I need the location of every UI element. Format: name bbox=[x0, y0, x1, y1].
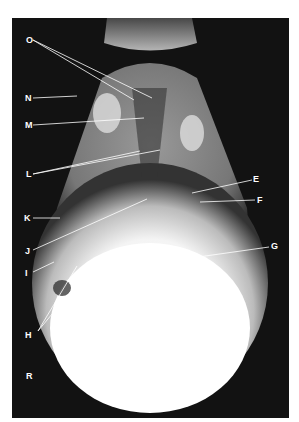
label-o: O bbox=[26, 36, 33, 45]
label-l: L bbox=[26, 170, 32, 179]
side-marker-r: R bbox=[26, 372, 33, 381]
label-j: J bbox=[25, 247, 30, 256]
label-g: G bbox=[271, 242, 278, 251]
label-e: E bbox=[253, 175, 259, 184]
label-f: F bbox=[257, 196, 263, 205]
label-n: N bbox=[25, 94, 32, 103]
xray-image: O N M L E F K J G I H R bbox=[12, 18, 289, 418]
label-m: M bbox=[25, 121, 33, 130]
label-i: I bbox=[25, 269, 28, 278]
label-k: K bbox=[24, 214, 31, 223]
label-h: H bbox=[25, 331, 32, 340]
xray-graphic bbox=[12, 18, 289, 418]
